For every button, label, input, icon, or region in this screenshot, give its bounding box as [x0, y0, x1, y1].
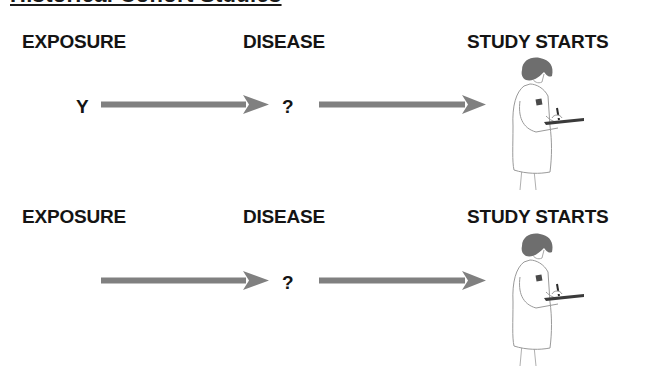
diagram-title: Historical Cohort Studies: [10, 0, 282, 8]
disease-value: ?: [282, 273, 294, 292]
heading-exposure: EXPOSURE: [22, 207, 126, 226]
arrow-exposure-to-disease: [101, 270, 269, 292]
heading-study-starts: STUDY STARTS: [467, 32, 609, 51]
disease-value: ?: [282, 97, 294, 116]
doctor-icon: [500, 232, 590, 367]
arrow-disease-to-study: [319, 270, 486, 292]
arrow-exposure-to-disease: [101, 94, 269, 116]
heading-disease: DISEASE: [243, 207, 325, 226]
doctor-icon: [500, 56, 590, 191]
heading-disease: DISEASE: [243, 32, 325, 51]
heading-exposure: EXPOSURE: [22, 32, 126, 51]
arrow-disease-to-study: [319, 94, 486, 116]
heading-study-starts: STUDY STARTS: [467, 207, 609, 226]
exposure-value: Y: [76, 97, 89, 116]
